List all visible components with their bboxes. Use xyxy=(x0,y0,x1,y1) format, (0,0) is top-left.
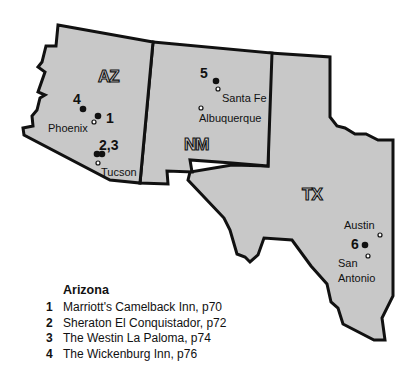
city-dot-phoenix xyxy=(92,120,96,124)
city-dot-san-antonio xyxy=(366,254,370,258)
legend-item-text: Marriott's Camelback Inn, p70 xyxy=(63,300,222,316)
state-arizona[interactable] xyxy=(23,25,153,183)
city-dot-tucson xyxy=(96,161,100,165)
legend-item-number: 2 xyxy=(46,316,63,332)
legend-item-number: 3 xyxy=(46,331,63,347)
legend-item[interactable]: 3 The Westin La Paloma, p74 xyxy=(46,331,226,347)
hotel-number-5: 5 xyxy=(200,65,208,81)
city-label-albuquerque: Albuquerque xyxy=(199,112,261,124)
city-label-san-antonio-line1: San xyxy=(338,257,358,269)
city-label-tucson: Tucson xyxy=(101,166,137,178)
city-dot-albuquerque xyxy=(199,106,203,110)
hotel-marker-dot-1[interactable] xyxy=(95,113,102,120)
legend-item-text: The Westin La Paloma, p74 xyxy=(63,331,211,347)
hotel-marker-dot-6[interactable] xyxy=(362,242,369,249)
legend-item-number: 1 xyxy=(46,300,63,316)
legend-item[interactable]: 4 The Wickenburg Inn, p76 xyxy=(46,347,226,363)
hotel-marker-dot-5[interactable] xyxy=(213,78,220,85)
legend-item-text: The Wickenburg Inn, p76 xyxy=(63,347,197,363)
city-label-santa-fe: Santa Fe xyxy=(222,92,267,104)
hotel-number-6: 6 xyxy=(351,236,359,252)
city-label-san-antonio-line2: Antonio xyxy=(338,272,375,284)
state-label-tx: TX xyxy=(302,185,323,204)
legend-item-text: Sheraton El Conquistador, p72 xyxy=(63,316,226,332)
city-label-austin: Austin xyxy=(344,219,375,231)
hotel-number-2-3: 2,3 xyxy=(99,137,119,153)
city-label-phoenix: Phoenix xyxy=(48,122,88,134)
state-label-az: AZ xyxy=(98,67,119,86)
state-label-nm: NM xyxy=(184,135,209,154)
legend-item[interactable]: 2 Sheraton El Conquistador, p72 xyxy=(46,316,226,332)
hotel-number-4: 4 xyxy=(73,91,81,107)
city-dot-austin xyxy=(378,233,382,237)
hotel-number-1: 1 xyxy=(106,110,114,126)
city-dot-santa-fe xyxy=(216,87,220,91)
legend-item[interactable]: 1 Marriott's Camelback Inn, p70 xyxy=(46,300,226,316)
legend-item-number: 4 xyxy=(46,347,63,363)
legend-title: Arizona xyxy=(63,283,226,297)
hotel-legend: Arizona 1 Marriott's Camelback Inn, p70 … xyxy=(46,283,226,362)
